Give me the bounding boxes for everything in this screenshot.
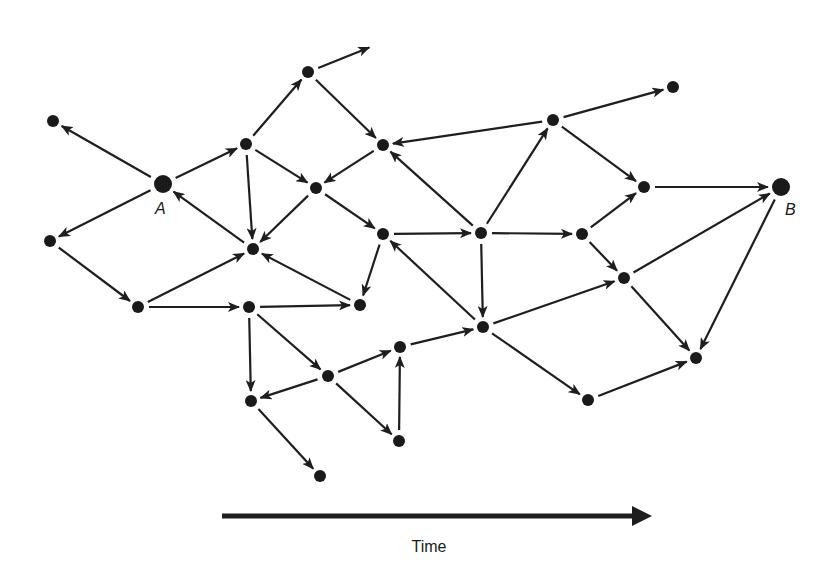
node-label-A: A	[154, 200, 166, 217]
edge-n12-to-n25	[249, 318, 251, 391]
edge-n16-to-n17	[591, 193, 636, 227]
edge-n7-to-A	[174, 192, 245, 243]
node-n24	[322, 370, 334, 382]
edge-n13-to-n9	[390, 152, 472, 226]
edge-n10-to-n13	[394, 233, 471, 234]
node-B	[772, 178, 790, 196]
edge-n22-to-n21	[492, 333, 580, 394]
edge-n5-to-n7	[247, 155, 253, 239]
node-n11	[354, 299, 366, 311]
time-axis-label: Time	[412, 538, 447, 556]
edge-n10-to-n11	[363, 244, 380, 295]
edge-A-to-n3	[59, 190, 151, 236]
edge-n13-to-n22	[481, 244, 483, 317]
edge-n5-to-n6	[253, 80, 301, 136]
node-n25	[245, 395, 257, 407]
edge-B-to-n20	[700, 200, 774, 350]
node-n13	[475, 227, 487, 239]
edge-n11-to-n7	[262, 254, 350, 300]
node-n15	[667, 81, 679, 93]
edge-n26-to-n23	[399, 357, 400, 430]
edge-n6-to-open-end-1	[318, 47, 369, 67]
edge-n16-to-n19	[590, 242, 618, 271]
node-n19	[618, 272, 630, 284]
node-n5	[240, 138, 252, 150]
node-n14	[547, 114, 559, 126]
edge-n22-to-n19	[493, 281, 614, 323]
edge-n22-to-n10	[390, 241, 475, 320]
node-label-B: B	[785, 201, 796, 218]
edges-layer	[59, 47, 775, 468]
edge-n13-to-n16	[492, 233, 572, 234]
node-n4	[132, 301, 144, 313]
edge-n24-to-n23	[338, 351, 391, 372]
node-n12	[243, 301, 255, 313]
edge-n12-to-n24	[257, 314, 320, 369]
edge-n14-to-n15	[564, 90, 664, 117]
edge-n23-to-n22	[411, 329, 474, 344]
edge-A-to-n1	[62, 126, 151, 177]
node-n7	[247, 243, 259, 255]
node-n1	[47, 115, 59, 127]
edge-n21-to-n20	[598, 362, 686, 396]
edge-n8-to-n7	[260, 196, 308, 242]
edge-n14-to-n17	[562, 127, 636, 182]
edge-n14-to-n9	[393, 122, 542, 144]
node-n9	[377, 139, 389, 151]
edge-n5-to-n8	[255, 150, 307, 183]
edge-n24-to-n25	[261, 379, 318, 398]
node-n3	[44, 235, 56, 247]
edge-n12-to-n11	[260, 305, 350, 307]
edge-n25-to-n27	[258, 409, 313, 469]
node-n22	[477, 321, 489, 333]
edge-n4-to-n7	[148, 254, 244, 303]
edge-n19-to-B	[634, 194, 770, 273]
nodes-layer	[44, 66, 790, 482]
edge-n6-to-n9	[316, 80, 376, 138]
node-n10	[377, 228, 389, 240]
node-n16	[576, 228, 588, 240]
edge-n19-to-n20	[631, 286, 689, 350]
edge-n3-to-n4	[59, 248, 130, 301]
node-n21	[582, 394, 594, 406]
directed-graph-diagram: AB	[0, 0, 837, 579]
node-n27	[314, 470, 326, 482]
edge-n13-to-n14	[487, 128, 548, 223]
node-n26	[393, 435, 405, 447]
node-A	[154, 175, 172, 193]
edge-n9-to-n8	[324, 151, 373, 183]
edge-n24-to-n26	[336, 383, 392, 434]
node-n17	[638, 181, 650, 193]
edge-A-to-n5	[176, 148, 237, 178]
node-n23	[394, 341, 406, 353]
edge-n8-to-n10	[325, 194, 375, 228]
node-n6	[302, 66, 314, 78]
node-n20	[690, 352, 702, 364]
node-n8	[310, 182, 322, 194]
